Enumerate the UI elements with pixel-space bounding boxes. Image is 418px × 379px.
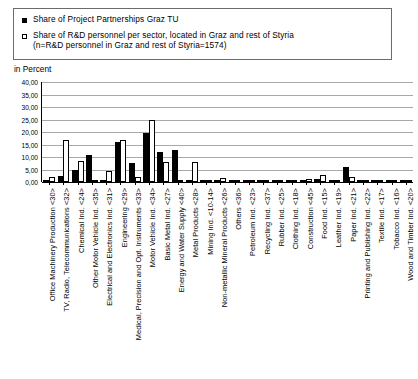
x-axis-category-label: Recycling Ind. <37> — [256, 186, 270, 376]
chart-legend: Share of Project Partnerships Graz TU Sh… — [13, 8, 392, 60]
plot-area — [41, 82, 413, 182]
bar-series-container — [42, 82, 413, 182]
x-axis-tick — [377, 182, 378, 185]
bar-rd-personnel — [63, 140, 69, 183]
x-axis-category-label: Other Motor Vehicle Ind. <35> — [84, 186, 98, 376]
bar-group — [42, 82, 56, 182]
bar-rd-personnel — [320, 175, 326, 182]
y-axis-tick-label: 10,00 — [21, 154, 38, 161]
bar-project-partnerships — [172, 150, 178, 183]
x-axis-category-label: Motor Vehicle Ind. <34> — [141, 186, 155, 376]
filled-square-marker-icon — [22, 18, 27, 23]
bar-group — [142, 82, 156, 182]
x-axis-tick — [120, 182, 121, 185]
bar-group — [384, 82, 398, 182]
bar-group — [170, 82, 184, 182]
bar-group — [299, 82, 313, 182]
bar-rd-personnel — [120, 140, 126, 183]
x-axis-tick — [92, 182, 93, 185]
x-axis-category-label: Metal Products <28> — [184, 186, 198, 376]
bar-group — [342, 82, 356, 182]
bar-group — [227, 82, 241, 182]
x-axis-category-label: Others <36> — [227, 186, 241, 376]
x-axis-tick — [334, 182, 335, 185]
x-axis-tick — [149, 182, 150, 185]
y-axis-tick-label: 15,00 — [21, 141, 38, 148]
x-axis-tick — [206, 182, 207, 185]
bar-group — [327, 82, 341, 182]
bar-group — [270, 82, 284, 182]
legend-item-rd-personnel: Share of R&D personnel per sector, locat… — [22, 30, 385, 51]
x-axis-tick-labels: Office Machinery Production <30>TV, Radi… — [41, 186, 413, 376]
legend-label-rd-personnel-note: (n=R&D personnel in Graz and rest of Sty… — [33, 40, 227, 50]
bar-group — [156, 82, 170, 182]
bar-group — [199, 82, 213, 182]
x-axis-category-label: Energy and Water Supply <40> — [170, 186, 184, 376]
x-axis-category-label: Construction <45> — [299, 186, 313, 376]
y-axis-tick-label: 40,00 — [21, 79, 38, 86]
y-axis-tick-label: 0,00 — [25, 179, 38, 186]
x-axis-category-label: Office Machinery Production <30> — [41, 186, 55, 376]
x-axis-category-label: Rubber Ind. <25> — [270, 186, 284, 376]
x-axis-category-label: Printing and Publishing Ind. <22> — [356, 186, 370, 376]
x-axis-tick — [320, 182, 321, 185]
bar-rd-personnel — [163, 162, 169, 182]
x-axis-tick — [235, 182, 236, 185]
hollow-square-marker-icon — [22, 34, 27, 39]
x-axis-category-label: Tobacco Ind. <16> — [384, 186, 398, 376]
bar-group — [99, 82, 113, 182]
x-axis-tick — [263, 182, 264, 185]
x-axis-category-label: Chemical Ind. <24> — [70, 186, 84, 376]
bar-group — [113, 82, 127, 182]
x-axis-tick — [135, 182, 136, 185]
x-axis-tick — [220, 182, 221, 185]
legend-item-project-partnerships: Share of Project Partnerships Graz TU — [22, 14, 385, 25]
x-axis-category-label: Leather Ind. <19> — [327, 186, 341, 376]
x-axis-category-label: Clothing Ind. <18> — [284, 186, 298, 376]
bar-group — [56, 82, 70, 182]
x-axis-tick — [49, 182, 50, 185]
x-axis-tick — [192, 182, 193, 185]
x-axis-category-label: Electrical and Electronics Ind. <31> — [98, 186, 112, 376]
bar-rd-personnel — [149, 120, 155, 183]
x-axis-category-label: Paper Ind. <21> — [341, 186, 355, 376]
bar-rd-personnel — [78, 161, 84, 182]
bar-group — [356, 82, 370, 182]
x-axis-baseline — [42, 182, 413, 183]
bar-group — [185, 82, 199, 182]
x-axis-category-label: Wood and Timber Ind. <20> — [399, 186, 413, 376]
legend-label-rd-personnel: Share of R&D personnel per sector, locat… — [33, 30, 294, 51]
bar-group — [399, 82, 413, 182]
x-axis-tick — [392, 182, 393, 185]
plot-wrapper: 0,005,0010,0015,0020,0025,0030,0035,0040… — [0, 78, 418, 190]
x-axis-category-label: Engineering <29> — [113, 186, 127, 376]
y-axis-tick-label: 30,00 — [21, 104, 38, 111]
bar-project-partnerships — [86, 155, 92, 183]
x-axis-category-label: Medical, Precision and Opt. Instruments … — [127, 186, 141, 376]
x-axis-category-label: Non-metallic Mineral Products <26> — [213, 186, 227, 376]
bar-group — [370, 82, 384, 182]
bar-group — [213, 82, 227, 182]
x-axis-tick — [349, 182, 350, 185]
x-axis-category-label: Basic Metal Ind. <27> — [155, 186, 169, 376]
x-axis-category-text: Wood and Timber Ind. <20> — [406, 188, 415, 281]
x-axis-category-label: Petroleum Ind. <23> — [241, 186, 255, 376]
x-axis-category-label: Food Ind. <15> — [313, 186, 327, 376]
bar-group — [71, 82, 85, 182]
x-axis-tick — [277, 182, 278, 185]
chart-page: Share of Project Partnerships Graz TU Sh… — [0, 0, 418, 379]
x-axis-tick — [163, 182, 164, 185]
bar-group — [313, 82, 327, 182]
x-axis-category-label: Mining Ind. <10-14> — [198, 186, 212, 376]
x-axis-tick — [178, 182, 179, 185]
y-axis-tick-label: 25,00 — [21, 116, 38, 123]
y-axis-tick-label: 35,00 — [21, 91, 38, 98]
x-axis-category-label: TV, Radio, Telecommunications <32> — [55, 186, 69, 376]
x-axis-tick — [63, 182, 64, 185]
y-axis-unit-label: in Percent — [14, 64, 51, 74]
bar-group — [285, 82, 299, 182]
legend-label-project-partnerships: Share of Project Partnerships Graz TU — [33, 14, 179, 25]
y-axis-tick-label: 5,00 — [25, 166, 38, 173]
x-axis-tick — [406, 182, 407, 185]
x-axis-tick — [306, 182, 307, 185]
